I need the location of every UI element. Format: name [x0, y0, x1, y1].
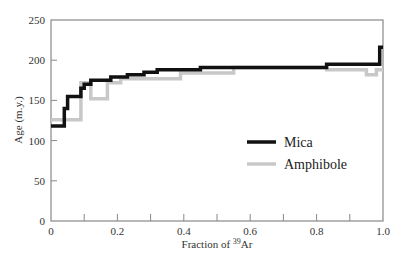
x-axis-label: Fraction of 39Ar: [182, 237, 253, 250]
legend: Mica Amphibole: [247, 135, 347, 172]
plot-frame: [51, 20, 383, 221]
x-tick-label: 0.8: [310, 225, 324, 237]
legend-amphibole-label: Amphibole: [284, 157, 347, 172]
y-axis-label: Age (m.y.): [12, 96, 25, 144]
legend-mica-label: Mica: [284, 135, 314, 150]
y-tick-label: 250: [29, 14, 46, 26]
x-tick-label: 0: [48, 225, 54, 237]
y-tick-label: 0: [40, 215, 46, 227]
y-tick-label: 200: [29, 54, 46, 66]
y-tick-label: 100: [29, 135, 46, 147]
x-tick-label: 0.6: [243, 225, 257, 237]
x-tick-label: 0.4: [177, 225, 191, 237]
chart: 050100150200250 00.20.40.60.81.0 Mica Am…: [0, 0, 402, 265]
series-layer: [51, 47, 383, 126]
x-tick-label: 0.2: [111, 225, 125, 237]
series-mica: [51, 47, 383, 126]
plot-border: [51, 20, 383, 221]
x-axis-ticks: 00.20.40.60.81.0: [48, 214, 390, 237]
y-tick-label: 50: [34, 175, 46, 187]
series-amphibole: [51, 67, 383, 119]
y-tick-label: 150: [29, 94, 46, 106]
x-tick-label: 1.0: [376, 225, 390, 237]
